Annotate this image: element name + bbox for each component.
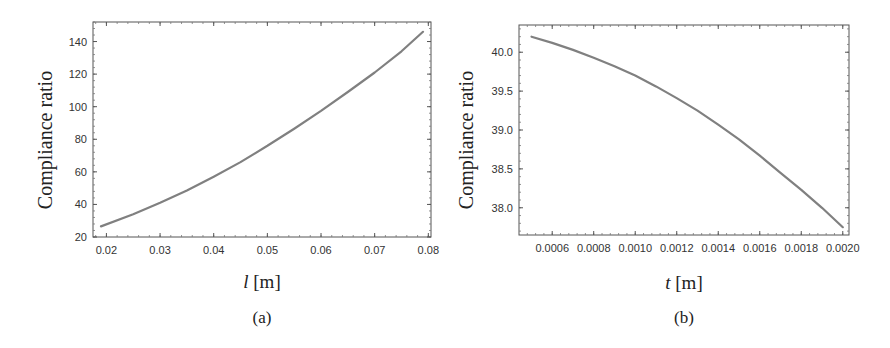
x-axis-label: l [m] [243,271,280,292]
x-tick-label: 0.0006 [535,242,569,254]
x-tick-label: 0.07 [364,244,385,256]
chart-panel-a: 0.020.030.040.050.060.070.08204060801001… [0,0,445,348]
x-axis-ticks: 0.020.030.040.050.060.070.08 [96,22,439,256]
plot-frame [519,25,849,235]
x-tick-label: 0.0014 [701,242,735,254]
y-tick-label: 80 [75,133,87,145]
x-tick-label: 0.02 [96,244,117,256]
x-tick-label: 0.0016 [743,242,777,254]
y-tick-label: 60 [75,166,87,178]
y-tick-label: 20 [75,231,87,243]
y-tick-label: 39.5 [492,85,513,97]
y-tick-label: 39.0 [492,124,513,136]
x-tick-label: 0.05 [257,244,278,256]
x-tick-label: 0.0020 [826,242,860,254]
x-tick-label: 0.0012 [660,242,694,254]
y-axis-label: Compliance ratio [34,71,57,209]
x-tick-label: 0.04 [203,244,224,256]
subfigure-caption: (a) [253,308,272,327]
x-tick-label: 0.03 [149,244,170,256]
data-line [532,37,843,228]
x-axis-ticks: 0.00060.00080.00100.00120.00140.00160.00… [535,25,859,254]
subfigure-caption: (b) [674,308,694,327]
chart-panel-b: 0.00060.00080.00100.00120.00140.00160.00… [445,0,890,348]
y-tick-label: 140 [69,36,87,48]
line-chart-b: 0.00060.00080.00100.00120.00140.00160.00… [445,0,890,348]
y-axis-ticks: 38.038.539.039.540.0 [492,46,849,214]
y-tick-label: 38.0 [492,202,513,214]
x-tick-label: 0.06 [310,244,331,256]
x-tick-label: 0.0010 [618,242,652,254]
x-axis-label: t [m] [665,272,702,293]
y-tick-label: 100 [69,101,87,113]
y-tick-label: 120 [69,68,87,80]
line-chart-a: 0.020.030.040.050.060.070.08204060801001… [0,0,445,348]
y-axis-ticks: 20406080100120140 [69,36,431,243]
x-tick-label: 0.0018 [784,242,818,254]
y-tick-label: 40 [75,198,87,210]
y-axis-label: Compliance ratio [455,71,478,209]
data-line [101,32,423,227]
x-tick-label: 0.08 [418,244,439,256]
x-tick-label: 0.0008 [577,242,611,254]
y-tick-label: 40.0 [492,46,513,58]
plot-frame [93,22,431,237]
y-tick-label: 38.5 [492,163,513,175]
